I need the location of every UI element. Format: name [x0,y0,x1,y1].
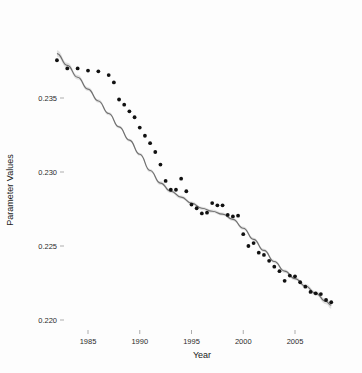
data-point [303,285,307,289]
data-point [314,291,318,295]
data-point [174,188,178,192]
data-point [247,244,251,248]
y-tick-label: 0.225 [38,242,57,251]
data-point [226,213,230,217]
data-point [309,290,313,294]
data-point [283,279,287,283]
x-tick-label: 1985 [80,337,97,346]
data-point [221,203,225,207]
scatter-plot-figure: 0.2200.2250.2300.235 1985199019952000200… [0,0,362,373]
x-tick-label: 1995 [183,337,200,346]
data-point [159,163,163,167]
y-tick-label: 0.235 [38,94,57,103]
data-point [138,126,142,130]
data-point [122,103,126,107]
data-point [272,265,276,269]
data-point [169,188,173,192]
data-point [190,203,194,207]
x-tick-label: 2000 [235,337,252,346]
data-point [65,67,69,71]
data-point [288,274,292,278]
data-point [210,201,214,205]
data-point [200,212,204,216]
data-point [278,269,282,273]
data-point [55,58,59,62]
data-point [205,211,209,215]
data-point [236,214,240,218]
y-tick-label: 0.230 [38,168,57,177]
data-point [184,189,188,193]
data-point [143,134,147,138]
data-point [164,179,168,183]
x-tick-label: 2005 [287,337,304,346]
plot-canvas: 0.2200.2250.2300.235 1985199019952000200… [0,0,362,373]
data-point [241,232,245,236]
y-tick-label: 0.220 [38,316,57,325]
data-point [319,292,323,296]
data-point [262,253,266,257]
data-point [96,69,100,73]
data-point [298,280,302,284]
data-point [252,241,256,245]
data-point [324,298,328,302]
data-point [179,177,183,181]
data-point [267,259,271,263]
data-point [117,98,121,102]
data-point [215,203,219,207]
data-point [127,109,131,113]
data-point [329,300,333,304]
data-point [133,115,137,119]
data-point [107,73,111,77]
data-point [153,150,157,154]
data-point [86,69,90,73]
x-tick-label: 1990 [131,337,148,346]
data-point [112,81,116,85]
y-axis-title: Parameter Values [5,154,15,226]
x-axis-title: Year [193,350,211,360]
data-point [231,215,235,219]
data-point [76,67,80,71]
data-point [257,251,261,255]
data-point [148,141,152,145]
data-point [293,274,297,278]
data-point [195,206,199,210]
